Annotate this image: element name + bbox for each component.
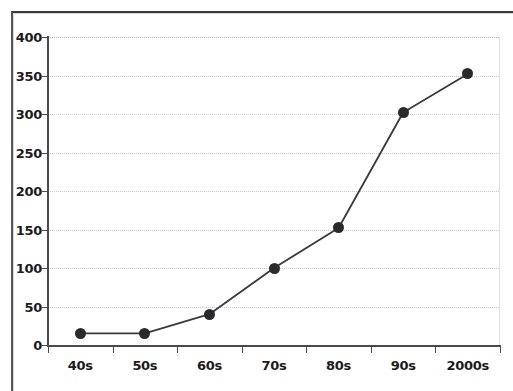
series-polyline: [80, 74, 467, 333]
data-point-90s: [398, 107, 409, 118]
data-point-60s: [204, 309, 215, 320]
line-chart-figure: 050100150200250300350400 40s50s60s70s80s…: [0, 0, 513, 391]
data-point-70s: [269, 263, 280, 274]
data-point-40s: [75, 328, 86, 339]
